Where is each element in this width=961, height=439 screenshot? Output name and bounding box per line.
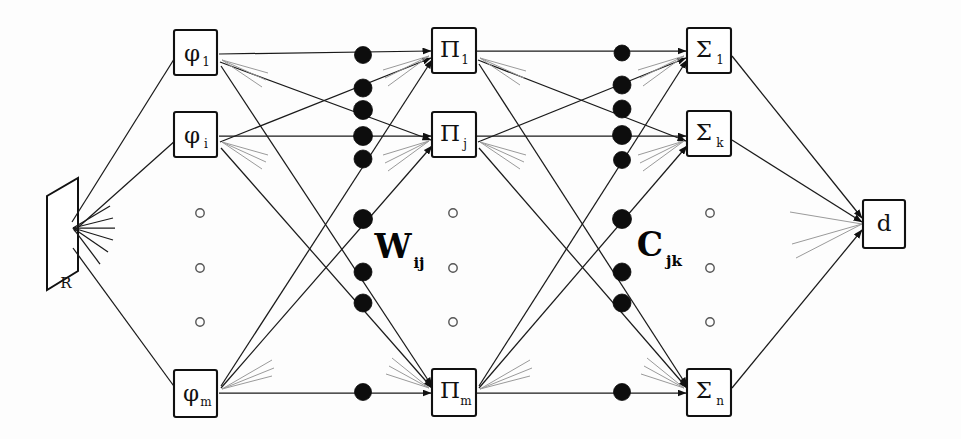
node-pi-m[interactable]: Π m [432,369,476,416]
sigma-to-output-connections [732,56,862,388]
node-pi-m-symbol: Π [440,377,460,403]
weight-dot [613,100,631,118]
ellipsis-column-pi [449,209,457,326]
weight-dot [354,294,372,312]
node-phi-1-symbol: φ [184,40,200,66]
weight-dot [613,210,632,229]
weight-label-c-symbol: C [637,225,663,264]
node-phi-m-symbol: φ [183,380,199,406]
node-pi-m-subscript: m [460,394,472,408]
sigma-input-fan-strokes [638,56,684,388]
phi-to-pi-connections [219,51,432,393]
node-sigma-k-symbol: Σ [696,119,712,145]
node-phi-i-symbol: φ [184,122,200,148]
node-sigma-1-symbol: Σ [696,36,712,62]
weight-dot [613,263,631,281]
weight-label-w-subscript: ij [413,254,424,272]
node-phi-1[interactable]: φ 1 [174,30,217,75]
pi-output-fan-strokes [480,58,532,389]
node-pi-j[interactable]: Π j [432,112,476,157]
weight-dot [613,294,631,312]
weight-dot-column-c [613,45,632,401]
node-sigma-n[interactable]: Σ n [687,369,731,416]
weight-dot-hatched [613,76,631,94]
weight-dot [354,127,373,146]
network-diagram-figure: R [0,0,961,439]
ellipsis-column-phi [196,209,204,326]
weight-label-c-subscript: jk [664,252,682,270]
retina-label: R [60,274,72,292]
weight-label-w-symbol: W [373,227,412,266]
node-pi-1[interactable]: Π 1 [432,28,476,73]
node-output-d[interactable]: d [863,200,905,248]
weight-dot [614,45,630,61]
phi-output-fan-strokes [222,60,274,389]
node-sigma-k[interactable]: Σ k [687,111,731,156]
weight-dot [354,101,373,120]
pi-to-sigma-connections [477,51,687,393]
node-output-d-symbol: d [877,210,892,236]
weight-dot-hatched [614,152,631,169]
weight-dot [355,384,372,401]
retina-ray-fan [73,206,115,264]
retina-plane: R [47,178,115,292]
ellipsis-column-sigma [706,209,714,326]
weight-dot [354,150,372,168]
weight-dot [354,210,373,229]
weight-dot-hatched [355,47,372,64]
node-sigma-n-subscript: n [716,394,724,408]
weight-dot [613,126,632,145]
node-pi-1-symbol: Π [440,36,460,62]
node-sigma-1-subscript: 1 [716,53,724,67]
diagram-canvas: R [0,0,961,439]
retina-to-phi-connections [72,56,176,389]
weight-dot [354,79,372,97]
node-phi-m-subscript: m [200,395,212,409]
weight-label-c: C jk [637,225,683,270]
node-phi-1-subscript: 1 [202,55,210,69]
weight-label-w: W ij [373,227,424,272]
node-sigma-k-subscript: k [716,136,724,150]
node-phi-i-subscript: i [204,137,208,151]
weight-dot [614,384,631,401]
pi-input-fan-strokes [383,56,429,388]
node-phi-i[interactable]: φ i [174,112,217,157]
node-pi-j-symbol: Π [440,120,460,146]
weight-dot-column-w [354,47,373,401]
weight-dot [354,263,372,281]
node-sigma-1[interactable]: Σ 1 [687,28,731,73]
node-phi-m[interactable]: φ m [174,370,217,417]
node-pi-1-subscript: 1 [461,53,469,67]
node-sigma-n-symbol: Σ [696,377,712,403]
